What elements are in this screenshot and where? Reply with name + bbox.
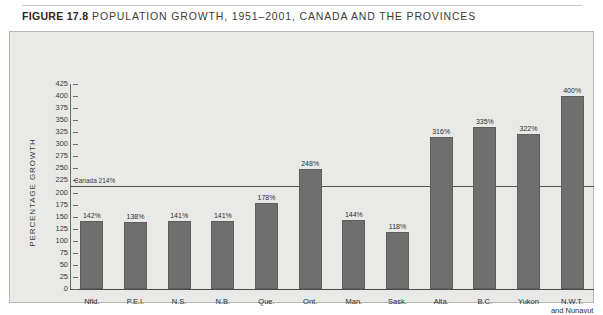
x-axis-line: [70, 289, 594, 290]
y-tick-mark: [73, 96, 78, 97]
y-tick-mark: [73, 144, 78, 145]
bar[interactable]: [386, 232, 409, 289]
bar-value-label: 138%: [127, 213, 145, 220]
figure-title-text: POPULATION GROWTH, 1951–2001, CANADA AND…: [92, 10, 476, 22]
bar[interactable]: [342, 220, 365, 289]
y-tick-label: 350: [55, 115, 68, 124]
bar[interactable]: [299, 169, 322, 289]
title-top-rule: [22, 5, 582, 6]
y-tick-label: 175: [55, 200, 68, 209]
y-tick-label: 375: [55, 103, 68, 112]
y-tick-label: 75: [60, 248, 68, 257]
bar[interactable]: [168, 221, 191, 289]
bar[interactable]: [124, 222, 147, 289]
bar[interactable]: [517, 134, 540, 289]
y-tick-label: 250: [55, 163, 68, 172]
bar-value-label: 118%: [389, 223, 406, 230]
bar-value-label: 141%: [170, 212, 188, 219]
y-tick-mark: [73, 168, 78, 169]
bar-value-label: 141%: [214, 212, 232, 219]
y-axis-title-text: PERCENTAGE GROWTH: [28, 138, 37, 247]
y-tick-label: 400: [55, 91, 68, 100]
bar-value-label: 322%: [520, 125, 538, 132]
canada-reference-line: [70, 186, 594, 187]
bar-value-label: 316%: [432, 128, 450, 135]
bar[interactable]: [430, 137, 453, 289]
y-tick-label: 25: [60, 272, 68, 281]
y-tick-mark: [73, 193, 78, 194]
bar[interactable]: [255, 203, 278, 289]
y-tick-mark: [73, 229, 78, 230]
y-tick-label: 300: [55, 139, 68, 148]
figure-title: FIGURE 17.8 POPULATION GROWTH, 1951–2001…: [22, 10, 476, 22]
y-tick-label: 325: [55, 127, 68, 136]
y-tick-mark: [73, 132, 78, 133]
bar-value-label: 248%: [301, 160, 319, 167]
bar[interactable]: [561, 96, 584, 289]
bar-value-label: 335%: [476, 118, 494, 125]
y-tick-label: 425: [55, 79, 68, 88]
y-tick-mark: [73, 205, 78, 206]
category-label-line: N.W.T.: [543, 297, 601, 306]
y-tick-label: 200: [55, 188, 68, 197]
bar[interactable]: [80, 221, 103, 289]
canada-reference-label: Canada 214%: [74, 177, 115, 184]
category-label-line: and Nunavut: [543, 306, 601, 315]
bar-value-label: 142%: [83, 212, 101, 219]
bar-value-label: 178%: [258, 194, 276, 201]
y-tick-label: 225: [55, 175, 68, 184]
y-tick-label: 50: [60, 260, 68, 269]
y-tick-mark: [73, 217, 78, 218]
chart-panel: PERCENTAGE GROWTH 4254003753503253002752…: [9, 31, 594, 303]
y-tick-mark: [73, 253, 78, 254]
y-tick-mark: [73, 265, 78, 266]
y-axis-title: PERCENTAGE GROWTH: [23, 122, 41, 262]
y-tick-mark: [73, 156, 78, 157]
y-tick-mark: [73, 120, 78, 121]
y-tick-label: 125: [55, 224, 68, 233]
bar-value-label: 400%: [563, 87, 581, 94]
y-tick-mark: [73, 277, 78, 278]
y-tick-mark: [73, 241, 78, 242]
bar[interactable]: [473, 127, 496, 289]
category-label: N.W.T.and Nunavut: [543, 297, 601, 315]
y-tick-label: 150: [55, 212, 68, 221]
y-tick-mark: [73, 108, 78, 109]
figure-number: FIGURE 17.8: [22, 10, 88, 22]
y-tick-label: 100: [55, 236, 68, 245]
plot-area: 4254003753503253002752502252001751501251…: [70, 84, 594, 289]
y-tick-mark: [73, 84, 78, 85]
y-tick-label: 0: [64, 284, 68, 293]
bar[interactable]: [211, 221, 234, 289]
y-tick-label: 275: [55, 151, 68, 160]
y-tick-mark: [73, 289, 78, 290]
bar-value-label: 144%: [345, 211, 363, 218]
